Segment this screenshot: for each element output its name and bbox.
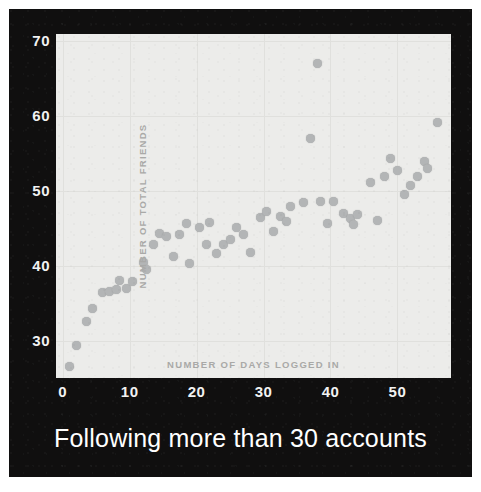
- data-point: [393, 166, 402, 175]
- data-point: [162, 232, 171, 241]
- data-point: [313, 59, 322, 68]
- data-point: [195, 223, 204, 232]
- data-point: [246, 248, 255, 257]
- gridline-vertical: [264, 34, 265, 378]
- data-point: [306, 134, 315, 143]
- data-point: [226, 235, 235, 244]
- data-point: [286, 202, 295, 211]
- gridline-vertical: [197, 34, 198, 378]
- gridline-vertical: [130, 34, 131, 378]
- data-point: [239, 230, 248, 239]
- data-point: [212, 249, 221, 258]
- gridline-horizontal: [56, 191, 451, 192]
- scatter-plot-poster: NUMBER OF DAYS LOGGED IN NUMBER OF TOTAL…: [0, 0, 481, 492]
- chart-caption: Following more than 30 accounts: [9, 424, 472, 453]
- data-point: [82, 317, 91, 326]
- data-point: [169, 252, 178, 261]
- x-tick-label: 30: [244, 384, 284, 399]
- x-tick-label: 40: [310, 384, 350, 399]
- x-axis-tick-labels: 01020304050: [0, 384, 481, 406]
- data-point: [406, 181, 415, 190]
- data-point: [269, 227, 278, 236]
- data-point: [366, 178, 375, 187]
- data-point: [299, 198, 308, 207]
- x-axis-title: NUMBER OF DAYS LOGGED IN: [56, 359, 451, 370]
- data-point: [282, 217, 291, 226]
- data-point: [316, 197, 325, 206]
- data-point: [115, 276, 124, 285]
- data-point: [423, 164, 432, 173]
- gridline-horizontal: [56, 116, 451, 117]
- data-point: [205, 218, 214, 227]
- y-tick-label: 30: [8, 333, 50, 348]
- data-point: [433, 118, 442, 127]
- data-point: [149, 240, 158, 249]
- y-tick-label: 40: [8, 258, 50, 273]
- gridline-horizontal: [56, 266, 451, 267]
- data-point: [262, 207, 271, 216]
- gridline-horizontal: [56, 341, 451, 342]
- x-tick-label: 10: [110, 384, 150, 399]
- gridline-vertical: [63, 34, 64, 378]
- data-point: [380, 172, 389, 181]
- plot-area: NUMBER OF DAYS LOGGED IN NUMBER OF TOTAL…: [56, 34, 451, 378]
- y-tick-label: 60: [8, 108, 50, 123]
- x-tick-label: 0: [43, 384, 83, 399]
- x-tick-label: 50: [377, 384, 417, 399]
- data-point: [329, 197, 338, 206]
- data-point: [88, 304, 97, 313]
- data-point: [373, 216, 382, 225]
- y-tick-label: 50: [8, 183, 50, 198]
- data-point: [349, 220, 358, 229]
- data-point: [413, 172, 422, 181]
- data-point: [386, 154, 395, 163]
- gridline-horizontal: [56, 41, 451, 42]
- y-axis-tick-labels: 3040506070: [0, 0, 50, 492]
- data-point: [202, 240, 211, 249]
- x-tick-label: 20: [177, 384, 217, 399]
- gridline-vertical: [330, 34, 331, 378]
- y-axis-title: NUMBER OF TOTAL FRIENDS: [137, 123, 148, 288]
- data-point: [353, 210, 362, 219]
- gridline-vertical: [397, 34, 398, 378]
- data-point: [400, 190, 409, 199]
- y-tick-label: 70: [8, 33, 50, 48]
- data-point: [175, 230, 184, 239]
- data-point: [72, 341, 81, 350]
- data-point: [182, 219, 191, 228]
- data-point: [112, 285, 121, 294]
